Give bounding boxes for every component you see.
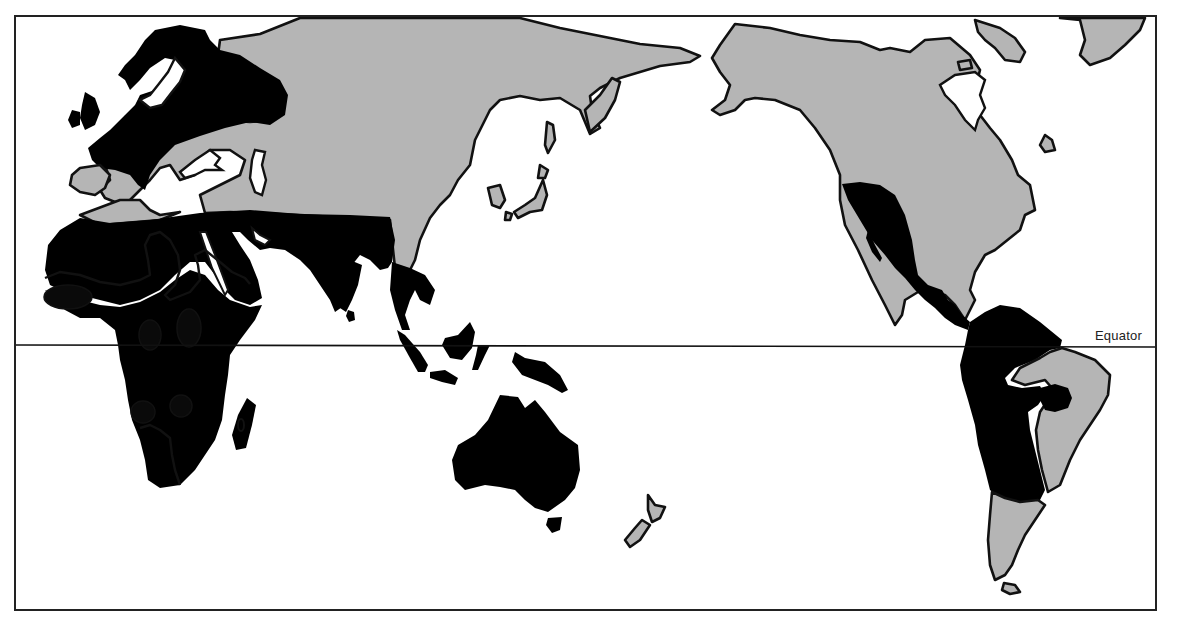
region-greenland — [1060, 18, 1145, 65]
region-sumatra — [397, 330, 428, 372]
region-new-guinea — [512, 352, 568, 393]
region-caspian — [250, 150, 266, 195]
region-new-zealand-north — [648, 495, 665, 522]
world-map — [0, 0, 1184, 625]
region-arctic-island — [958, 60, 972, 70]
hotspot-west-africa — [44, 285, 92, 309]
region-borneo — [442, 322, 475, 360]
region-korea — [488, 185, 505, 208]
region-sakhalin — [545, 122, 555, 153]
region-tierra-del-fuego — [1002, 583, 1020, 594]
region-southern-south-america — [988, 492, 1045, 580]
region-newfoundland — [1040, 135, 1055, 152]
region-kyushu — [505, 212, 512, 220]
region-sri-lanka — [346, 310, 355, 322]
hotspot-southern-africa-west — [131, 401, 155, 423]
region-new-zealand-south — [625, 520, 650, 547]
region-india — [325, 258, 362, 312]
region-north-america — [712, 24, 1035, 325]
region-australia — [452, 395, 580, 512]
hotspot-central-africa-east — [177, 309, 201, 347]
region-java — [430, 370, 458, 385]
region-britain — [80, 92, 100, 130]
region-japan — [514, 180, 547, 218]
region-sulawesi — [472, 345, 490, 370]
hotspot-southern-africa-east — [170, 395, 192, 417]
region-tasmania — [546, 517, 562, 533]
region-baffin-island — [975, 20, 1025, 62]
region-japan-north — [538, 165, 548, 178]
region-indochina — [390, 262, 435, 330]
region-ireland — [68, 110, 80, 128]
equator-label: Equator — [1095, 328, 1142, 343]
